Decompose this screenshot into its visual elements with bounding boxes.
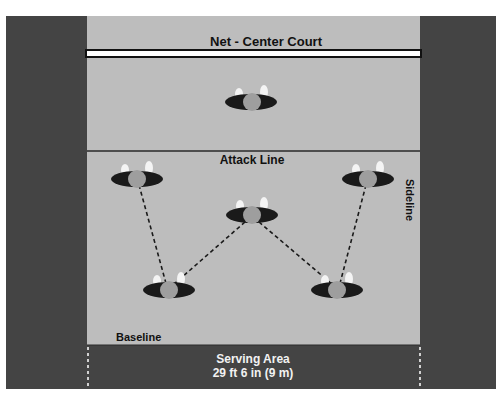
serving-area-size: 29 ft 6 in (9 m) xyxy=(213,366,294,380)
sideline-label: Sideline xyxy=(404,179,416,221)
baseline-label: Baseline xyxy=(116,331,161,343)
net xyxy=(86,50,421,57)
player-head xyxy=(160,281,178,299)
net-label: Net - Center Court xyxy=(210,34,323,49)
serving-area-title: Serving Area xyxy=(216,352,290,366)
player-head xyxy=(359,170,377,188)
player-head xyxy=(128,170,146,188)
attack-line-label: Attack Line xyxy=(220,153,285,167)
player-head xyxy=(328,281,346,299)
volleyball-court-diagram: Net - Center Court Attack Line Sideline … xyxy=(0,0,503,396)
player-head xyxy=(243,206,261,224)
player-head xyxy=(243,93,261,111)
